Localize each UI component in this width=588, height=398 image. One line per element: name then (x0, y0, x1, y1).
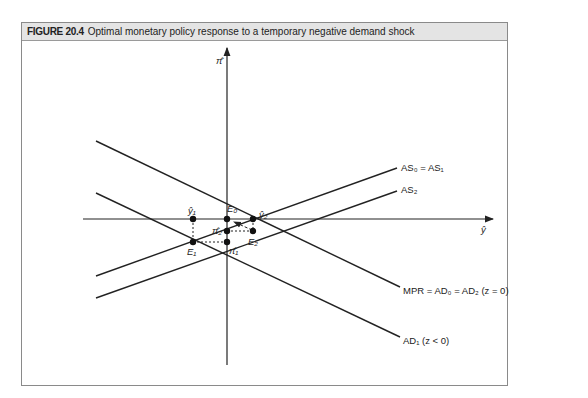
point-e2 (250, 228, 256, 234)
y-axis-label: π̂ (216, 55, 224, 66)
label-e1: E₁ (187, 246, 196, 257)
label-pi1: π̂₁ (229, 245, 238, 256)
label-as0-as1: AS₀ = AS₁ (401, 162, 444, 173)
label-pi2: π̂₂ (212, 225, 222, 236)
point-y2 (250, 216, 256, 222)
as0-as1-line (96, 168, 397, 276)
point-pi2 (224, 228, 230, 234)
point-y1 (190, 216, 196, 222)
label-e2: E₂ (248, 236, 258, 247)
point-e0 (224, 216, 230, 222)
label-e0: E₀ (227, 203, 237, 214)
label-y2: ŷ₂ (258, 209, 268, 220)
label-mpr: MPR = AD₀ = AD₂ (z = 0) (403, 285, 509, 296)
x-axis-label: ŷ (480, 224, 487, 235)
label-ad1: AD₁ (z < 0) (403, 335, 449, 346)
as2-line (96, 191, 397, 298)
point-e1 (190, 239, 196, 245)
label-y1: ŷ₁ (187, 205, 196, 216)
label-as2: AS₂ (401, 184, 418, 195)
diagram-canvas: π̂ ŷ E₀ ŷ₁ E₁ ŷ₂ E₂ π̂₂ π̂₁ AS₀ = AS₁ AS… (0, 0, 588, 398)
